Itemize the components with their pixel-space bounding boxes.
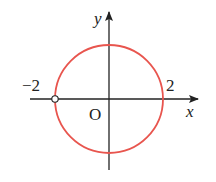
pos-two-label: 2 bbox=[166, 76, 175, 95]
origin-label: O bbox=[89, 105, 101, 124]
y-axis-label: y bbox=[92, 9, 102, 28]
neg-two-label: −2 bbox=[22, 76, 40, 95]
open-point bbox=[52, 96, 58, 102]
circle-diagram: y x O −2 2 bbox=[0, 0, 216, 182]
x-axis-label: x bbox=[185, 102, 194, 121]
